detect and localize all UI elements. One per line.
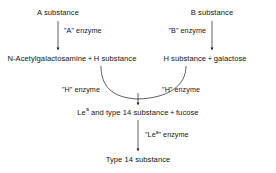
lewis-a-symbol-base: Le (77, 108, 86, 117)
node-b-substance: B substance (191, 8, 233, 17)
edge-label-a-enzyme-text: "A" enzyme (64, 26, 102, 35)
edge-label-a-enzyme: "A" enzyme (64, 26, 102, 35)
edge-label-h-enzyme-right-text: "H" enzyme (162, 85, 200, 94)
edge-arrows-layer (0, 0, 276, 173)
edge-label-h-enzyme-left: "H" enzyme (62, 85, 100, 94)
node-lea-and-type14-substance: Lea and type 14 substance+fucose (77, 108, 198, 117)
node-b-substance-label: B substance (191, 8, 233, 17)
edge-label-lewis-a-enzyme: "Lea" enzyme (145, 130, 189, 139)
curve-left-products-to-lea (101, 66, 138, 99)
node-right-products-reactant: H substance (163, 54, 206, 63)
node-a-substance-label: A substance (37, 8, 79, 17)
node-a-substance: A substance (37, 8, 79, 17)
edge-label-b-enzyme: "B" enzyme (168, 26, 206, 35)
node-lea-type14-coproduct: fucose (176, 108, 199, 117)
node-left-products-coproduct: H substance (94, 54, 137, 63)
node-right-products: H substance+galactose (163, 54, 246, 63)
node-left-products-reactant: N-Acetylgalactosamine (8, 54, 87, 63)
node-lea-type14-middle: and type 14 substance (89, 108, 169, 117)
edge-label-h-enzyme-right: "H" enzyme (162, 85, 200, 94)
pathway-diagram: A substance B substance N-Acetylgalactos… (0, 0, 276, 173)
edge-label-h-enzyme-left-text: "H" enzyme (62, 85, 100, 94)
curve-right-products-to-lea (138, 66, 186, 99)
node-type-14-substance: Type 14 substance (106, 155, 171, 164)
node-type-14-substance-label: Type 14 substance (106, 155, 171, 164)
edge-label-lewis-a-enzyme-suffix: " enzyme (158, 130, 188, 139)
node-right-products-coproduct: galactose (214, 54, 247, 63)
edge-label-b-enzyme-text: "B" enzyme (168, 26, 206, 35)
node-left-products: N-Acetylgalactosamine+H substance (8, 54, 137, 63)
plus-sign: + (168, 108, 176, 117)
edge-label-lewis-a-enzyme-base: "Le (145, 130, 156, 139)
